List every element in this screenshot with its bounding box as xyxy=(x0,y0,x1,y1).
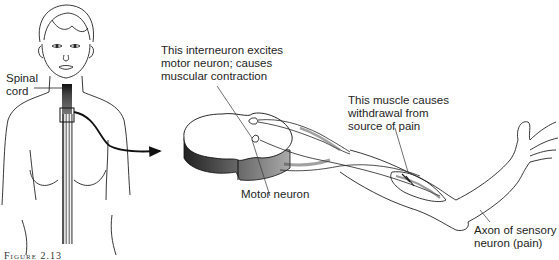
figure-caption: Figure 2.13 xyxy=(4,250,62,260)
label-line: muscular contraction xyxy=(161,70,283,83)
label-muscle: This muscle causes withdrawal from sourc… xyxy=(348,94,449,133)
label-line: This muscle causes xyxy=(348,94,449,107)
arm xyxy=(340,122,558,231)
label-line: neuron (pain) xyxy=(474,237,556,250)
label-motor-neuron: Motor neuron xyxy=(241,188,309,201)
label-line: motor neuron; causes xyxy=(161,57,283,70)
label-interneuron: This interneuron excites motor neuron; c… xyxy=(161,44,283,83)
label-line: Axon of sensory xyxy=(474,224,556,237)
reflex-diagram xyxy=(0,0,559,260)
label-line: This interneuron excites xyxy=(161,44,283,57)
label-sensory-axon: Axon of sensory neuron (pain) xyxy=(474,224,556,250)
label-line: Motor neuron xyxy=(241,188,309,201)
label-spinal-cord: Spinal cord xyxy=(6,72,38,98)
label-line: cord xyxy=(6,85,38,98)
label-line: withdrawal from xyxy=(348,107,449,120)
zoom-arrow xyxy=(74,112,160,151)
label-line: Spinal xyxy=(6,72,38,85)
label-line: source of pain xyxy=(348,120,449,133)
